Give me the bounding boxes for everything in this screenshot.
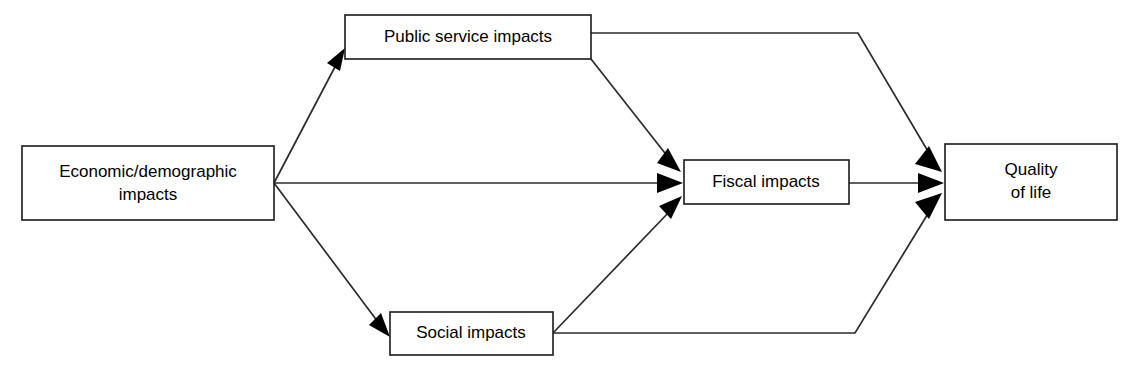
edge-fiscal-to-quality: [849, 173, 944, 193]
edge-economic-to-social: [274, 183, 390, 337]
node-box-quality[interactable]: [945, 144, 1117, 220]
node-label-public-service: Public service impacts: [384, 27, 552, 46]
arrowhead-icon: [657, 173, 683, 193]
arrowhead-icon: [659, 196, 682, 219]
node-label-social: Social impacts: [416, 323, 526, 342]
edge-social-to-quality: [553, 193, 942, 333]
node-label-economic-line2: impacts: [119, 185, 178, 204]
arrowhead-icon: [369, 313, 390, 337]
arrowhead-icon: [918, 173, 944, 193]
edge-public-service-to-fiscal: [591, 59, 681, 172]
edge-economic-to-public-service: [274, 48, 345, 183]
node-fiscal-impacts[interactable]: Fiscal impacts: [684, 160, 849, 204]
flow-diagram-canvas: Economic/demographic impacts Public serv…: [0, 0, 1137, 367]
flow-diagram: Economic/demographic impacts Public serv…: [0, 0, 1137, 367]
node-label-fiscal: Fiscal impacts: [712, 172, 820, 191]
node-label-quality-line2: of life: [1011, 183, 1052, 202]
arrowhead-icon: [657, 148, 681, 172]
arrowhead-icon: [915, 193, 942, 219]
node-quality-of-life[interactable]: Quality of life: [945, 144, 1117, 220]
node-layer: Economic/demographic impacts Public serv…: [22, 15, 1117, 355]
node-label-quality-line1: Quality: [1005, 160, 1058, 179]
node-social-impacts[interactable]: Social impacts: [390, 312, 553, 355]
edge-economic-to-fiscal: [274, 173, 683, 193]
edge-social-to-fiscal: [553, 196, 682, 333]
edge-public-service-to-quality: [591, 33, 942, 172]
node-box-economic[interactable]: [22, 146, 274, 220]
arrowhead-icon: [915, 146, 942, 172]
node-economic-demographic-impacts[interactable]: Economic/demographic impacts: [22, 146, 274, 220]
arrowhead-icon: [327, 48, 345, 71]
node-public-service-impacts[interactable]: Public service impacts: [345, 15, 591, 59]
node-label-economic-line1: Economic/demographic: [59, 162, 237, 181]
